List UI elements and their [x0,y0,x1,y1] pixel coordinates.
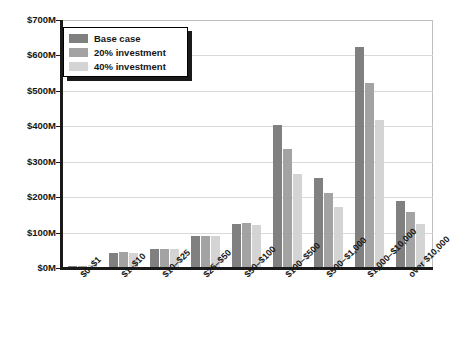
legend-label: 40% investment [94,62,166,72]
bar [324,193,333,267]
y-axis-tick-label: $200M [0,192,56,202]
legend-item: Base case [69,32,182,45]
y-axis-tick-label: $700M [0,15,56,25]
bar [191,236,200,267]
bar-group [314,20,344,267]
y-axis-tick-label: $600M [0,50,56,60]
legend-label: 20% investment [94,48,166,58]
bar-group [355,20,385,267]
legend-swatch [69,62,88,71]
y-axis-tick-label: $100M [0,228,56,238]
bar [242,223,251,267]
bar-group [273,20,303,267]
legend-swatch [69,48,88,57]
chart-legend: Base case20% investment40% investment [63,27,188,77]
bar [201,236,210,267]
legend-item: 40% investment [69,60,182,73]
y-axis-tick-label: $300M [0,157,56,167]
bar [283,149,292,267]
y-axis-tick-label: $0M [0,263,56,273]
legend-label: Base case [94,34,140,44]
bar [150,249,159,267]
bar [232,224,241,267]
bar [109,253,118,267]
y-axis-tick-label: $400M [0,121,56,131]
bar [355,47,364,267]
bar [375,120,384,267]
bar-group [191,20,221,267]
bar [273,125,282,267]
legend-swatch [69,34,88,43]
bar-group [232,20,262,267]
y-axis-tick-label: $500M [0,86,56,96]
legend-item: 20% investment [69,46,182,59]
